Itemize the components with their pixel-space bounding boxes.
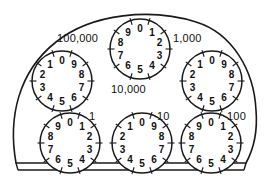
dial-100000-digit: 7 <box>79 82 85 93</box>
dial-10000-digit: 0 <box>137 23 143 34</box>
dial-100000-digit: 9 <box>71 59 77 70</box>
dial-10-digit: 2 <box>120 131 126 142</box>
dial-10-digit: 8 <box>159 131 165 142</box>
dial-100000-digit: 4 <box>47 92 53 103</box>
dial-1-digit: 2 <box>87 131 93 142</box>
dial-1000-label: 1,000 <box>173 33 202 44</box>
dial-1-digit: 4 <box>79 154 85 165</box>
dial-10-digit: 1 <box>127 121 133 132</box>
dial-1-digit: 9 <box>55 121 61 132</box>
dial-100000-digit: 8 <box>79 69 85 80</box>
dial-10000-digit: 9 <box>125 27 131 38</box>
dial-10-digit: 9 <box>151 121 157 132</box>
meter-face: 0123456789012345678901234567890123456789… <box>0 0 268 184</box>
dial-10-digit: 3 <box>120 144 126 155</box>
dial-10-digit: 0 <box>139 117 145 128</box>
dial-10000-label: 10,000 <box>111 84 146 95</box>
dial-100-digit: 7 <box>189 144 195 155</box>
dial-1000-digit: 4 <box>197 92 203 103</box>
dial-1-digit: 0 <box>67 117 73 128</box>
dial-10000-digit: 7 <box>118 50 124 61</box>
dial-10000-digit: 1 <box>149 27 155 38</box>
dial-1000-digit: 0 <box>209 55 215 66</box>
dial-1-digit: 7 <box>48 144 54 155</box>
dial-10000-digit: 6 <box>125 60 131 71</box>
dial-100-digit: 2 <box>228 131 234 142</box>
dial-100-digit: 3 <box>228 144 234 155</box>
dial-10-digit: 6 <box>151 154 157 165</box>
dial-1-digit: 1 <box>79 121 85 132</box>
dial-1000-digit: 8 <box>229 69 235 80</box>
dial-1-label: 1 <box>89 111 95 122</box>
dial-1-digit: 8 <box>48 131 54 142</box>
dial-100-digit: 4 <box>220 154 226 165</box>
dial-1000-digit: 7 <box>229 82 235 93</box>
dial-100-label: 100 <box>227 111 246 122</box>
dial-10000-digit: 5 <box>137 64 143 75</box>
dial-10-digit: 5 <box>139 158 145 169</box>
dial-100000-digit: 5 <box>59 96 65 107</box>
dial-100-digit: 1 <box>220 121 226 132</box>
dial-1-digit: 3 <box>87 144 93 155</box>
dial-10-digit: 7 <box>159 144 165 155</box>
dial-10-label: 10 <box>157 111 170 122</box>
dial-100-digit: 6 <box>196 154 202 165</box>
dial-1000-digit: 2 <box>190 69 196 80</box>
dial-100-digit: 8 <box>189 131 195 142</box>
dial-100-digit: 5 <box>208 158 214 169</box>
dial-10000-digit: 3 <box>157 50 163 61</box>
dial-1-digit: 5 <box>67 158 73 169</box>
dial-1-digit: 6 <box>55 154 61 165</box>
dial-10-digit: 4 <box>127 154 133 165</box>
dial-100000-digit: 0 <box>59 55 65 66</box>
dial-100000-digit: 2 <box>40 69 46 80</box>
dial-1000-digit: 1 <box>197 59 203 70</box>
dial-100000-label: 100,000 <box>57 33 98 44</box>
dial-10000-digit: 2 <box>157 37 163 48</box>
dial-100-digit: 9 <box>196 121 202 132</box>
dial-1000-digit: 9 <box>221 59 227 70</box>
dial-10000-digit: 4 <box>149 60 155 71</box>
dial-100-digit: 0 <box>208 117 214 128</box>
dial-10000-digit: 8 <box>118 37 124 48</box>
dial-100000-digit: 6 <box>71 92 77 103</box>
dial-100000-digit: 3 <box>40 82 46 93</box>
dial-1000-digit: 6 <box>221 92 227 103</box>
dial-1000-digit: 5 <box>209 96 215 107</box>
dial-100000-digit: 1 <box>47 59 53 70</box>
dial-1000-digit: 3 <box>190 82 196 93</box>
